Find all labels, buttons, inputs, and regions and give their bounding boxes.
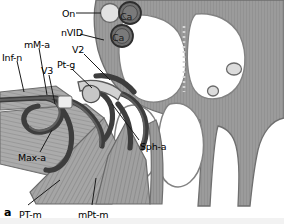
anatomy-illustration xyxy=(0,0,284,224)
label-pt-g: Pt-g xyxy=(57,60,75,70)
pterygopalatine-ganglion xyxy=(82,85,100,102)
label-max-a: Max-a xyxy=(18,153,46,163)
label-sph-a: Sph-a xyxy=(140,142,166,152)
optic-canal xyxy=(101,4,120,23)
footer-band xyxy=(0,218,284,224)
foramen-small-upper xyxy=(227,63,242,75)
anatomical-figure: On Ca Ca nVID mM-a V2 Inf-n V3 Pt-g Max-… xyxy=(0,0,284,224)
foramen-small-lower xyxy=(208,86,219,96)
label-ca-lower: Ca xyxy=(112,33,124,43)
fenestra-v3 xyxy=(58,96,72,108)
label-ca-upper: Ca xyxy=(120,12,132,22)
label-nvid: nVID xyxy=(61,28,83,38)
label-inf-n: Inf-n xyxy=(2,53,22,63)
label-mm-a: mM-a xyxy=(24,40,50,50)
label-on: On xyxy=(62,9,75,19)
label-v2: V2 xyxy=(72,45,84,55)
label-v3: V3 xyxy=(41,66,53,76)
